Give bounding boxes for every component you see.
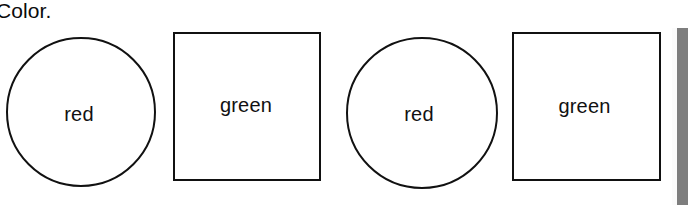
shape-label: green [558,96,610,116]
shape-label: red [64,104,94,124]
shape-label: red [404,104,434,124]
shape-square-green-1: green [173,32,321,181]
shape-label: green [220,95,272,115]
page-heading: Color. [0,0,51,24]
shape-circle-red-1: red [6,37,156,187]
shape-circle-red-2: red [346,37,498,189]
document-page: Color. red green red green [0,0,691,205]
shape-square-green-2: green [512,32,661,181]
scan-edge-shadow [677,28,688,205]
